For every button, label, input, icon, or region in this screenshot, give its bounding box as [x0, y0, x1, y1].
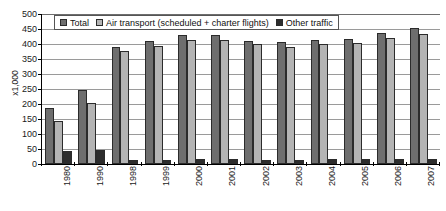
- y-axis-tick-label: 50: [27, 144, 37, 154]
- bar: [120, 51, 129, 164]
- bar-group: [377, 14, 404, 164]
- bars-layer: [42, 14, 440, 164]
- bar: [377, 33, 386, 164]
- bar-group: [178, 14, 205, 164]
- bar: [277, 42, 286, 164]
- bar: [253, 44, 262, 164]
- bar-chart: x1,000 050100150200250300350400450500 19…: [0, 0, 446, 211]
- bar: [295, 160, 304, 165]
- bar: [353, 43, 362, 164]
- bar-group: [277, 14, 304, 164]
- y-axis-title: x1,000: [10, 48, 20, 118]
- bar: [319, 44, 328, 164]
- x-axis-tick: [340, 162, 341, 166]
- x-axis-tick-label: 2003: [294, 166, 304, 186]
- y-axis-tick-label: 150: [22, 114, 37, 124]
- x-axis-tick: [406, 162, 407, 166]
- bar-group: [78, 14, 105, 164]
- x-axis-tick: [439, 162, 440, 166]
- x-axis-tick-label: 2005: [360, 166, 370, 186]
- x-axis-tick-label: 2002: [261, 166, 271, 186]
- bar: [395, 159, 404, 164]
- y-axis-tick-label: 400: [22, 39, 37, 49]
- y-axis-tick-label: 500: [22, 9, 37, 19]
- legend-item: Other traffic: [276, 18, 333, 28]
- x-axis: 1980199019981999200020012002200320042005…: [41, 166, 439, 211]
- bar: [45, 108, 54, 164]
- x-axis-tick-label: 2001: [227, 166, 237, 186]
- x-axis-tick: [373, 162, 374, 166]
- y-axis-tick-label: 0: [32, 159, 37, 169]
- bar-group: [211, 14, 238, 164]
- bar: [428, 159, 437, 164]
- x-axis-tick: [273, 162, 274, 166]
- legend-label: Total: [70, 18, 89, 28]
- legend-swatch-icon: [96, 19, 103, 26]
- legend-label: Other traffic: [286, 18, 333, 28]
- y-axis-tick-label: 100: [22, 129, 37, 139]
- bar: [229, 159, 238, 164]
- bar: [154, 46, 163, 164]
- legend-swatch-icon: [60, 19, 67, 26]
- x-axis-tick: [41, 162, 42, 166]
- x-axis-tick-label: 2000: [194, 166, 204, 186]
- legend-swatch-icon: [276, 19, 283, 26]
- x-axis-tick-label: 2006: [393, 166, 403, 186]
- x-axis-tick: [174, 162, 175, 166]
- bar: [344, 39, 353, 164]
- bar: [112, 47, 121, 164]
- x-axis-tick: [207, 162, 208, 166]
- bar-group: [410, 14, 437, 164]
- bar: [145, 41, 154, 164]
- x-axis-tick-label: 1990: [95, 166, 105, 186]
- bar-group: [344, 14, 371, 164]
- y-axis-tick-label: 450: [22, 24, 37, 34]
- x-axis-tick: [240, 162, 241, 166]
- bar-group: [45, 14, 72, 164]
- bar-group: [145, 14, 172, 164]
- bar: [196, 159, 205, 164]
- bar: [163, 160, 172, 165]
- bar: [87, 103, 96, 164]
- bar: [78, 90, 87, 164]
- x-axis-tick-label: 1980: [62, 166, 72, 186]
- plot-area: 050100150200250300350400450500: [41, 14, 440, 165]
- x-axis-tick: [74, 162, 75, 166]
- bar: [96, 150, 105, 164]
- bar-group: [244, 14, 271, 164]
- bar: [63, 151, 72, 164]
- bar: [129, 160, 138, 165]
- x-axis-tick-label: 1998: [128, 166, 138, 186]
- bar-group: [311, 14, 338, 164]
- y-axis-tick-label: 300: [22, 69, 37, 79]
- x-axis-tick: [306, 162, 307, 166]
- bar: [187, 40, 196, 164]
- x-axis-tick: [141, 162, 142, 166]
- x-axis-tick: [107, 162, 108, 166]
- bar: [286, 47, 295, 164]
- y-axis-tick-label: 200: [22, 99, 37, 109]
- x-axis-tick-label: 2007: [426, 166, 436, 186]
- bar: [328, 159, 337, 164]
- x-axis-tick-label: 2004: [327, 166, 337, 186]
- x-axis-tick-label: 1999: [161, 166, 171, 186]
- legend-item: Total: [60, 18, 89, 28]
- legend-item: Air transport (scheduled + charter fligh…: [96, 18, 269, 28]
- bar: [244, 41, 253, 164]
- bar-group: [112, 14, 139, 164]
- bar: [220, 40, 229, 164]
- bar: [262, 160, 271, 164]
- bar: [211, 35, 220, 164]
- y-axis-tick-label: 250: [22, 84, 37, 94]
- bar: [54, 121, 63, 165]
- bar: [419, 34, 428, 164]
- chart-legend: TotalAir transport (scheduled + charter …: [54, 15, 339, 30]
- legend-label: Air transport (scheduled + charter fligh…: [106, 18, 269, 28]
- bar: [410, 28, 419, 164]
- bar: [362, 159, 371, 164]
- bar: [386, 38, 395, 164]
- bar: [311, 40, 320, 165]
- y-axis-tick-label: 350: [22, 54, 37, 64]
- bar: [178, 35, 187, 164]
